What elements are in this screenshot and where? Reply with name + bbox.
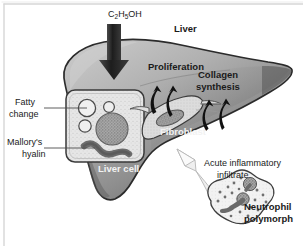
hepatocyte-nucleus [96,113,128,145]
acute-infiltrate-label-line1: Acute inflammatory [204,158,282,168]
mallory-hyalin-label-line1: Mallory's [7,137,43,147]
mallory-hyalin-label-line2: hyalin [22,149,46,159]
fatty-change-label-line1: Fatty [15,97,36,107]
collagen-synthesis-label-line2: synthesis [196,81,240,92]
acute-infiltrate-label-line2: infiltrate [217,170,249,180]
liver-cell-label: Liver cell [98,163,139,174]
diagram-svg: C2H5OH Liver Proliferation Collagen synt… [0,0,305,249]
hepatocyte-cutaway [66,90,144,162]
fibroblast-label: Fibroblast [160,126,207,137]
ethanol-oh: OH [128,9,142,19]
collagen-synthesis-label-line1: Collagen [198,69,238,80]
neutrophil-label-line2: polymorph [244,213,293,224]
figure-canvas: C2H5OH Liver Proliferation Collagen synt… [0,0,305,249]
fatty-change-label-line2: change [9,109,39,119]
neutrophil-label-line1: Neutrophil [244,201,292,212]
proliferation-label: Proliferation [148,61,204,72]
liver-label: Liver [174,23,197,34]
